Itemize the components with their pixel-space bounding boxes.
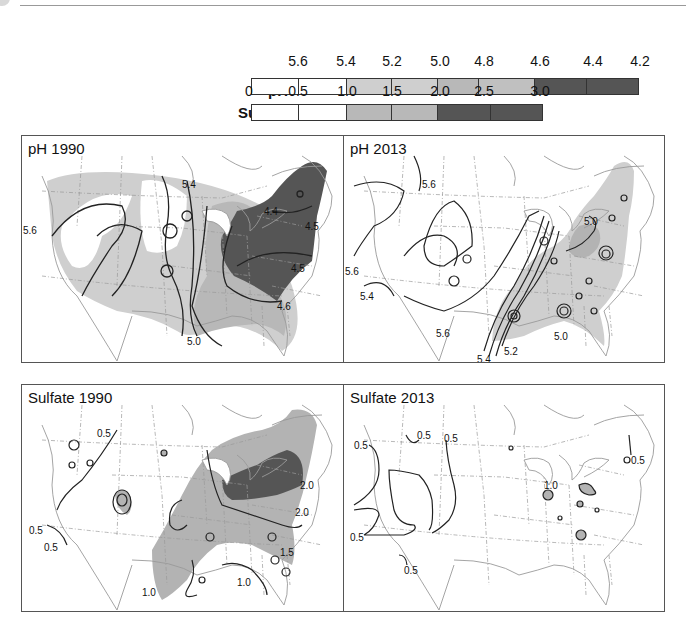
contour-label: 5.4 <box>182 179 196 190</box>
ph-tick: 4.8 <box>474 53 493 69</box>
map-panel-ph-1990: pH 1990 5.6 5.4 4.4 4.5 4.5 4.6 5.0 <box>21 135 344 363</box>
contour-label: 4.4 <box>264 206 278 217</box>
ph-tick: 4.2 <box>630 53 649 69</box>
contour-label: 1.5 <box>280 547 294 558</box>
contour-label: 5.2 <box>504 346 518 357</box>
map-panel-ph-2013: pH 2013 5.6 5.6 5.4 5.6 5.4 5.2 5.0 5.0 <box>343 135 665 363</box>
contour-label: 0.5 <box>354 440 368 451</box>
contour-label: 4.5 <box>291 263 305 274</box>
sulfate-tick: 0 <box>245 83 253 99</box>
ph-tick: 5.4 <box>336 53 355 69</box>
map-panel-sulfate-2013: Sulfate 2013 0.5 0.5 0.5 0.5 0.5 0.5 1.0 <box>343 384 665 612</box>
contour-label: 0.5 <box>417 430 431 441</box>
contour-label: 1.0 <box>142 587 156 598</box>
contour-label: 5.0 <box>584 216 598 227</box>
contour-label: 0.5 <box>44 542 58 553</box>
panel-title: pH 1990 <box>28 140 85 157</box>
sulfate-tick: 0.5 <box>288 83 307 99</box>
contour-label: 0.5 <box>631 455 645 466</box>
contour-label: 5.0 <box>554 331 568 342</box>
ph-1990-map <box>22 136 344 363</box>
contour-label: 0.5 <box>404 565 418 576</box>
page-header-rule <box>20 5 686 6</box>
sulfate-seg <box>392 105 438 120</box>
ph-tick: 5.0 <box>430 53 449 69</box>
contour-label: 2.0 <box>300 480 314 491</box>
contour-label: 5.0 <box>187 336 201 347</box>
contour-label: 5.4 <box>477 354 491 363</box>
sulfate-tick: 2.0 <box>430 83 449 99</box>
ph-tick: 4.6 <box>530 53 549 69</box>
sulfate-tick: 1.0 <box>337 83 356 99</box>
contour-label: 0.5 <box>97 428 111 439</box>
contour-label: 0.5 <box>29 525 43 536</box>
sulfate-tick: 2.5 <box>474 83 493 99</box>
contour-label: 0.5 <box>444 433 458 444</box>
map-panel-sulfate-1990: Sulfate 1990 0.5 0.5 0.5 2.0 2.0 1.5 1.0… <box>21 384 344 612</box>
contour-label: 5.6 <box>345 266 359 277</box>
sulfate-1990-map <box>22 385 344 612</box>
ph-tick: 4.4 <box>583 53 602 69</box>
sulfate-seg <box>491 105 542 120</box>
contour-label: 5.6 <box>422 179 436 190</box>
contour-label: 1.0 <box>544 480 558 491</box>
sulfate-tick: 1.5 <box>382 83 401 99</box>
sulfate-tick: 3.0 <box>530 83 549 99</box>
contour-label: 5.4 <box>360 291 374 302</box>
contour-label: 5.6 <box>436 328 450 339</box>
ph-tick: 5.2 <box>382 53 401 69</box>
panel-title: Sulfate 2013 <box>350 389 434 406</box>
ph-tick: 5.6 <box>288 53 307 69</box>
contour-label: 0.5 <box>350 532 364 543</box>
ph-seg <box>587 79 638 94</box>
page-corner-tab <box>0 0 10 6</box>
sulfate-seg <box>252 105 299 120</box>
panel-title: pH 2013 <box>350 140 407 157</box>
panel-title: Sulfate 1990 <box>28 389 112 406</box>
sulfate-seg <box>438 105 491 120</box>
contour-label: 2.0 <box>295 507 309 518</box>
ph-2013-map <box>344 136 665 363</box>
contour-label: 4.6 <box>277 301 291 312</box>
sulfate-seg <box>299 105 347 120</box>
contour-label: 5.6 <box>23 225 37 236</box>
sulfate-2013-map <box>344 385 665 612</box>
sulfate-color-bar <box>251 104 543 121</box>
sulfate-seg <box>347 105 392 120</box>
contour-label: 1.0 <box>237 577 251 588</box>
contour-label: 4.5 <box>305 221 319 232</box>
